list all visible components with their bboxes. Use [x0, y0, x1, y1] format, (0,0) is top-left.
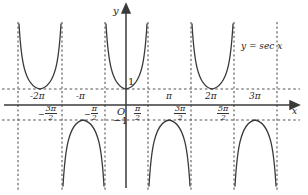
branch-down-pos-3pi — [235, 120, 276, 186]
graph-canvas — [0, 0, 308, 195]
fraction: π2 — [134, 105, 141, 122]
curve-legend-label: y = sec x — [241, 42, 282, 51]
x-tick-label-neg-3pi-over-2: −3π2 — [38, 106, 57, 123]
y-axis-arrow — [122, 4, 130, 13]
fraction: 5π2 — [217, 105, 229, 122]
x-tick-label-neg-pi: -π — [76, 92, 85, 101]
y-tick-label-minus-1: −1 — [113, 116, 128, 126]
branch-down-pos-pi — [149, 120, 190, 186]
branch-up-neg-2pi — [19, 24, 61, 89]
x-tick-label-neg-2pi: -2π — [30, 92, 45, 101]
sec-x-graph-figure: y x O 1 −1 -2π -π π 2π 3π −3π2 −π2 π2 3π… — [0, 0, 308, 195]
x-tick-label-pi: π — [166, 92, 172, 101]
minus-sign: − — [84, 110, 91, 119]
branch-down-neg-pi — [63, 120, 104, 186]
x-tick-label-pi-over-2: π2 — [134, 106, 141, 123]
x-tick-label-3pi: 3π — [249, 92, 261, 101]
x-tick-label-5pi-over-2: 5π2 — [217, 106, 229, 123]
y-axis-label: y — [113, 6, 119, 16]
x-tick-label-2pi: 2π — [205, 92, 217, 101]
branch-up-pos-2pi — [192, 24, 233, 89]
x-axis-label: x — [292, 107, 297, 116]
minus-sign: − — [38, 110, 45, 119]
y-tick-label-1: 1 — [128, 77, 134, 87]
fraction: 3π2 — [45, 105, 57, 122]
x-tick-label-3pi-over-2: 3π2 — [174, 106, 186, 123]
fraction: π2 — [91, 105, 98, 122]
fraction: 3π2 — [174, 105, 186, 122]
x-tick-label-neg-pi-over-2: −π2 — [84, 106, 98, 123]
